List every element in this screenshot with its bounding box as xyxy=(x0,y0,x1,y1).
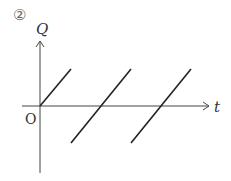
figure-number: ② xyxy=(13,8,26,23)
x-axis-label: t xyxy=(214,100,220,115)
y-axis-label: Q xyxy=(36,22,48,37)
chart-figure: ② Q O t xyxy=(0,0,231,181)
segment-1 xyxy=(40,69,71,106)
chart-plot xyxy=(0,0,231,181)
origin-label: O xyxy=(25,112,36,126)
